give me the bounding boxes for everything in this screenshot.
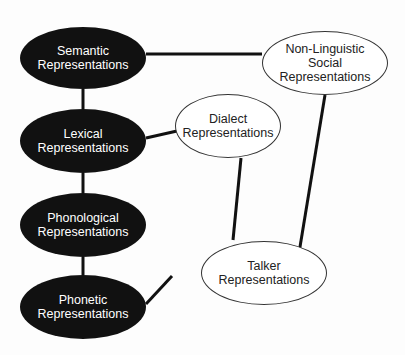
node-phonetic: Phonetic Representations [20,275,146,339]
representation-diagram: Semantic RepresentationsLexical Represen… [0,0,405,355]
node-social: Non-Linguistic Social Representations [262,31,388,95]
node-label: Non-Linguistic Social Representations [279,42,370,84]
node-lexical: Lexical Representations [20,109,146,173]
node-phonological: Phonological Representations [20,193,146,257]
node-dialect: Dialect Representations [175,94,281,158]
edge-phonetic-talker [146,276,172,304]
edge-dialect-talker [233,158,241,240]
node-label: Talker Representations [218,259,309,287]
edge-lexical-dialect [146,131,177,138]
node-label: Dialect Representations [182,112,273,140]
node-label: Phonetic Representations [37,293,128,321]
node-label: Lexical Representations [37,127,128,155]
node-talker: Talker Representations [201,241,327,305]
edge-social-talker [298,95,325,259]
node-label: Phonological Representations [37,211,128,239]
node-label: Semantic Representations [37,44,128,72]
node-semantic: Semantic Representations [20,27,146,89]
